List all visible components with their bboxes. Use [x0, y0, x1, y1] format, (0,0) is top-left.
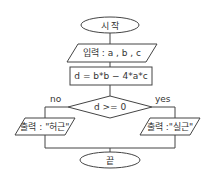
edge-decision-no — [45, 107, 68, 118]
edge-merge — [45, 135, 175, 148]
input-label: 입력 : a , b , c — [83, 47, 141, 58]
start-label: 시 작 — [101, 21, 120, 31]
output-no-label: 출력 : "허근" — [20, 121, 69, 132]
end-label: 끝 — [106, 156, 114, 166]
start-node: 시 작 — [81, 17, 139, 33]
output-yes-node: 출력 :"실근" — [140, 118, 200, 135]
decision-node: d >= 0 — [68, 96, 152, 118]
output-yes-label: 출력 :"실근" — [147, 121, 193, 132]
end-node: 끝 — [80, 152, 140, 168]
flowchart: 시 작 입력 : a , b , c d = b*b − 4*a*c d >= … — [0, 0, 221, 180]
no-branch-label: no — [50, 94, 62, 104]
decision-label: d >= 0 — [94, 102, 127, 112]
yes-branch-label: yes — [155, 94, 171, 104]
input-node: 입력 : a , b , c — [67, 44, 157, 62]
edge-decision-yes — [152, 107, 175, 118]
compute-label: d = b*b − 4*a*c — [74, 71, 147, 81]
compute-node: d = b*b − 4*a*c — [70, 67, 152, 85]
output-no-node: 출력 : "허근" — [15, 118, 75, 135]
